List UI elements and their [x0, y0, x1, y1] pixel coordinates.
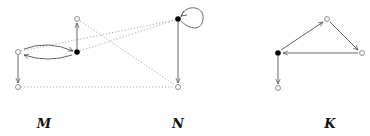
edge-m-center-to-m-left [24, 55, 72, 59]
loop-arrowhead [181, 11, 187, 16]
graph-k-edges [278, 22, 358, 84]
graph-n-edges [178, 8, 203, 83]
node-k-bottom [276, 86, 281, 91]
node-m-top [75, 17, 80, 22]
node-n-top [175, 16, 181, 22]
node-m-center [74, 49, 80, 55]
graph-m-edges [18, 23, 77, 83]
node-m-left [16, 50, 21, 55]
edge-m-left-to-m-center [24, 45, 73, 51]
node-k-center [275, 50, 281, 56]
dotted-m-center-to-n-top [80, 20, 175, 51]
label-k: K [323, 116, 336, 131]
node-k-right [360, 51, 365, 56]
node-m-bottom [16, 85, 21, 90]
edge-k-top-to-k-right [330, 22, 358, 50]
label-n: N [171, 116, 185, 131]
label-m: M [36, 116, 52, 131]
node-k-top [325, 17, 330, 22]
edge-k-center-to-k-top [281, 22, 323, 50]
dotted-m-top-to-n-bottom [80, 21, 175, 85]
correspondence-lines [21, 20, 175, 87]
edge-n-top-loop [181, 8, 203, 28]
graph-morphism-diagram: M N K [0, 0, 370, 136]
node-n-bottom [176, 85, 181, 90]
dotted-m-left-to-n-top [21, 20, 175, 51]
